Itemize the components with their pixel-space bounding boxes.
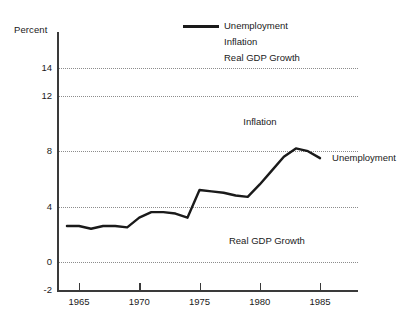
legend-item-real-gdp-growth[interactable]: Real GDP Growth [224,50,300,66]
legend-item-label: Real GDP Growth [224,52,300,63]
legend-line-swatch [183,25,219,28]
data-series-layer [0,0,399,330]
annotation-unemployment: Unemployment [332,152,396,163]
chart-container: Percent -20481214 19651970197519801985 I… [0,0,399,330]
series-line-unemployment [67,148,320,228]
legend-item-label: Unemployment [224,20,288,31]
legend-item-label: Inflation [224,36,257,47]
annotation-inflation: Inflation [243,116,276,127]
chart-legend: UnemploymentInflationReal GDP Growth [224,18,300,66]
legend-item-unemployment[interactable]: Unemployment [224,18,300,34]
legend-item-inflation[interactable]: Inflation [224,34,300,50]
annotation-real-gdp-growth: Real GDP Growth [229,235,305,246]
